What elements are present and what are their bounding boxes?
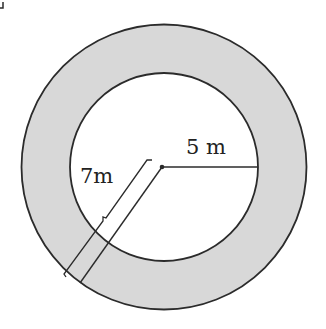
center-point [160,165,165,170]
annulus-diagram: 7m 5 m [0,0,326,329]
inner-radius-label: 5 m [186,135,226,159]
outer-radius-label: 7m [80,164,113,188]
corner-fragment [0,2,3,8]
